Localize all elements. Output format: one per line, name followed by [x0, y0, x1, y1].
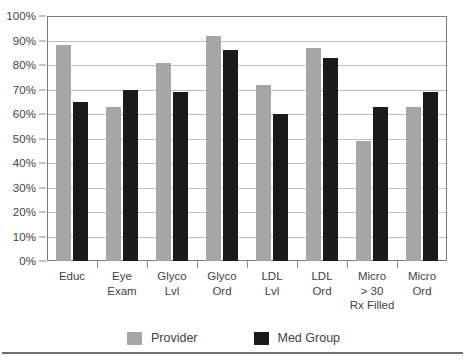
legend-swatch-medgroup	[254, 332, 269, 345]
y-axis-tick	[39, 114, 46, 115]
y-axis-tick	[39, 89, 46, 90]
bar-provider	[156, 63, 171, 261]
x-axis-labels: EducEye ExamGlyco LvlGlyco OrdLDL LvlLDL…	[47, 269, 447, 327]
y-axis-tick	[39, 40, 46, 41]
bar-med-group	[423, 92, 438, 261]
y-axis-tick	[39, 261, 46, 262]
x-axis-tick	[397, 261, 398, 268]
bar-provider	[206, 36, 221, 261]
x-axis-tick	[147, 261, 148, 268]
legend-label: Provider	[151, 331, 198, 345]
y-axis-tick	[39, 236, 46, 237]
bar-med-group	[373, 107, 388, 261]
chart-legend: ProviderMed Group	[0, 327, 467, 349]
y-axis: 0%10%20%30%40%50%60%70%80%90%100%	[0, 16, 44, 261]
legend-swatch-provider	[127, 332, 142, 345]
y-axis-tick	[39, 163, 46, 164]
x-axis-category-label: Micro Ord	[389, 269, 455, 298]
y-axis-tick	[39, 187, 46, 188]
bar-group	[147, 16, 197, 261]
x-axis-tick	[97, 261, 98, 268]
y-axis-tick-label: 100%	[6, 10, 36, 22]
y-axis-tick-label: 0%	[19, 255, 36, 267]
bar-group	[197, 16, 247, 261]
bar-med-group	[323, 58, 338, 261]
legend-item: Med Group	[254, 331, 341, 345]
bar-provider	[106, 107, 121, 261]
bar-provider	[56, 45, 71, 261]
bar-provider	[406, 107, 421, 261]
bars-layer	[47, 16, 447, 261]
legend-item: Provider	[127, 331, 198, 345]
bar-med-group	[173, 92, 188, 261]
bar-group	[97, 16, 147, 261]
bar-group	[397, 16, 447, 261]
x-axis-tick	[247, 261, 248, 268]
y-axis-tick-label: 50%	[13, 133, 36, 145]
x-axis-tick	[347, 261, 348, 268]
y-axis-tick-label: 60%	[13, 108, 36, 120]
bar-group	[347, 16, 397, 261]
footer-divider	[2, 352, 463, 354]
x-axis-tick	[297, 261, 298, 268]
bar-group	[297, 16, 347, 261]
x-axis-ticks	[47, 261, 447, 269]
legend-label: Med Group	[278, 331, 341, 345]
bar-provider	[306, 48, 321, 261]
bar-med-group	[223, 50, 238, 261]
bar-provider	[256, 85, 271, 261]
y-axis-tick-label: 80%	[13, 59, 36, 71]
clipped-title	[95, 0, 355, 1]
bar-provider	[356, 141, 371, 261]
y-axis-tick	[39, 65, 46, 66]
y-axis-tick-label: 70%	[13, 84, 36, 96]
y-axis-tick-label: 90%	[13, 35, 36, 47]
x-axis-tick	[197, 261, 198, 268]
bar-med-group	[123, 90, 138, 262]
y-axis-tick-label: 10%	[13, 231, 36, 243]
bar-med-group	[73, 102, 88, 261]
y-axis-tick	[39, 138, 46, 139]
bar-group	[247, 16, 297, 261]
y-axis-tick	[39, 16, 46, 17]
bar-chart: 0%10%20%30%40%50%60%70%80%90%100% EducEy…	[0, 0, 467, 362]
bar-group	[47, 16, 97, 261]
y-axis-tick-label: 40%	[13, 157, 36, 169]
y-axis-tick-label: 30%	[13, 182, 36, 194]
y-axis-tick	[39, 212, 46, 213]
y-axis-tick-label: 20%	[13, 206, 36, 218]
bar-med-group	[273, 114, 288, 261]
